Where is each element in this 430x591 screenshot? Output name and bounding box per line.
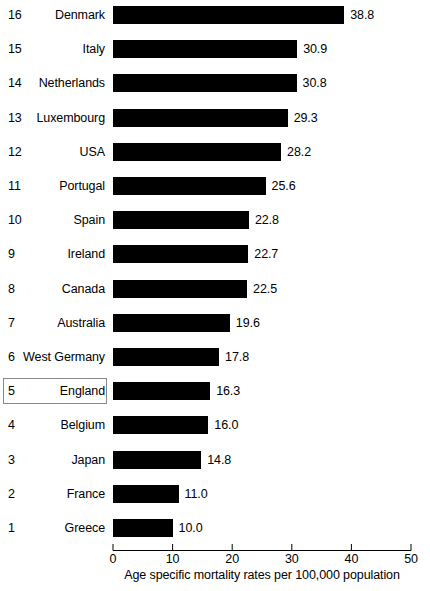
bar [113,143,281,161]
category-label: West Germany [8,351,105,364]
category-label: Netherlands [8,77,105,90]
bar [113,74,297,92]
bar [113,211,249,229]
bar [113,245,248,263]
category-label: Canada [8,282,105,295]
value-label: 22.5 [253,282,277,295]
value-label: 29.3 [294,111,318,124]
value-label: 30.9 [303,43,327,56]
chart-row: 4Belgium16.0 [0,410,430,440]
value-label: 10.0 [179,522,203,535]
bar [113,40,297,58]
bar [113,485,179,503]
bar [113,348,219,366]
bar [113,519,173,537]
bar [113,314,230,332]
bar [113,280,247,298]
chart-row: 11Portugal25.6 [0,171,430,201]
chart-row: 15Italy30.9 [0,34,430,64]
value-label: 19.6 [236,317,260,330]
value-label: 22.7 [254,248,278,261]
category-label: Spain [8,214,105,227]
chart-row: 12USA28.2 [0,137,430,167]
value-label: 28.2 [287,146,311,159]
chart-row: 8Canada22.5 [0,274,430,304]
category-label: Ireland [8,248,105,261]
x-tick-label: 20 [225,553,239,566]
value-label: 17.8 [225,351,249,364]
category-label: Australia [8,317,105,330]
value-label: 30.8 [303,77,327,90]
category-label: USA [8,146,105,159]
x-tick-label: 50 [404,553,418,566]
bar [113,109,288,127]
category-label: Japan [8,453,105,466]
chart-row: 14Netherlands30.8 [0,68,430,98]
x-tick-label: 10 [166,553,180,566]
value-label: 16.3 [216,385,240,398]
chart-row: 9Ireland22.7 [0,239,430,269]
value-label: 16.0 [214,419,238,432]
category-label: Luxembourg [8,111,105,124]
chart-row: 16Denmark38.8 [0,0,430,30]
value-label: 11.0 [185,488,208,501]
chart-row: 5England16.3 [0,376,430,406]
value-label: 22.8 [255,214,279,227]
category-label: Greece [8,522,105,535]
chart-row: 3Japan14.8 [0,445,430,475]
x-tick-label: 30 [285,553,299,566]
value-label: 14.8 [207,453,231,466]
category-label: Portugal [8,180,105,193]
bar-chart: 16Denmark38.815Italy30.914Netherlands30.… [0,0,430,591]
value-label: 38.8 [350,9,374,22]
axis-caption: Age specific mortality rates per 100,000… [113,569,411,582]
bar [113,382,210,400]
chart-row: 10Spain22.8 [0,205,430,235]
bar [113,451,201,469]
bar [113,177,266,195]
chart-row: 1Greece10.0 [0,513,430,543]
chart-row: 6West Germany17.8 [0,342,430,372]
category-label: France [8,488,105,501]
axis-ticks [113,544,411,551]
chart-row: 2France11.0 [0,479,430,509]
category-label: England [8,385,105,398]
chart-row: 7Australia19.6 [0,308,430,338]
category-label: Denmark [8,9,105,22]
x-tick-label: 0 [110,553,117,566]
bar [113,6,344,24]
value-label: 25.6 [272,180,296,193]
chart-row: 13Luxembourg29.3 [0,103,430,133]
category-label: Italy [8,43,105,56]
category-label: Belgium [8,419,105,432]
x-tick-label: 40 [345,553,359,566]
bar [113,416,208,434]
